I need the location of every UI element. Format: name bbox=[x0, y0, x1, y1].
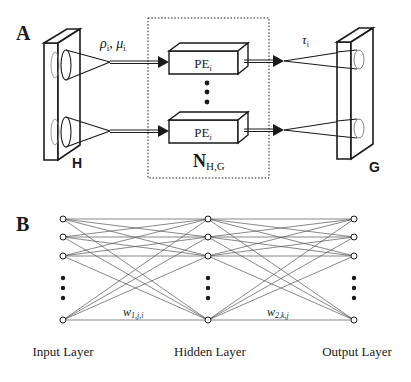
output-layer-nodes bbox=[351, 216, 357, 323]
hidden-node bbox=[205, 253, 211, 259]
output-node bbox=[351, 234, 357, 240]
weight-label-1: w1,j,i bbox=[123, 305, 143, 320]
input-node bbox=[60, 253, 66, 259]
output-param-label: τi bbox=[302, 32, 310, 49]
figure-canvas: A H ρi, μi bbox=[0, 0, 411, 382]
input-node bbox=[60, 317, 66, 323]
hidden-node bbox=[205, 216, 211, 222]
connections-input-hidden bbox=[63, 219, 208, 320]
hidden-node bbox=[205, 317, 211, 323]
input-layer-label: Input Layer bbox=[32, 344, 94, 359]
pe-ellipsis-dots bbox=[205, 81, 210, 105]
output-node bbox=[351, 216, 357, 222]
output-arrows bbox=[244, 55, 284, 136]
hidden-layer-label: Hidden Layer bbox=[174, 344, 247, 359]
connections-hidden-output bbox=[208, 219, 354, 320]
input-ellipsis-dots bbox=[61, 276, 65, 300]
input-sheet-label: H bbox=[72, 155, 82, 171]
input-node bbox=[60, 234, 66, 240]
output-layer-label: Output Layer bbox=[322, 344, 392, 359]
weight-label-2: w2,k,j bbox=[267, 305, 290, 320]
output-node bbox=[351, 317, 357, 323]
network-label: NH,G bbox=[193, 151, 225, 172]
input-arrows bbox=[110, 56, 169, 137]
input-layer-nodes bbox=[60, 216, 66, 323]
panel-a-label: A bbox=[16, 22, 31, 44]
hidden-layer-nodes bbox=[205, 216, 211, 323]
output-sheet-g bbox=[337, 28, 373, 159]
network-box bbox=[148, 18, 269, 178]
pe-1-label: PEi bbox=[194, 56, 211, 73]
input-params-label: ρi, μi bbox=[99, 36, 126, 53]
output-node bbox=[351, 253, 357, 259]
pe-2-label: PEi bbox=[194, 125, 211, 142]
hidden-ellipsis-dots bbox=[206, 276, 210, 300]
panel-a: A H ρi, μi bbox=[16, 18, 380, 178]
output-ellipsis-dots bbox=[352, 276, 356, 300]
hidden-node bbox=[205, 234, 211, 240]
input-node bbox=[60, 216, 66, 222]
panel-b-label: B bbox=[16, 213, 29, 235]
panel-b: B bbox=[16, 213, 393, 359]
output-sheet-label: G bbox=[369, 159, 380, 175]
